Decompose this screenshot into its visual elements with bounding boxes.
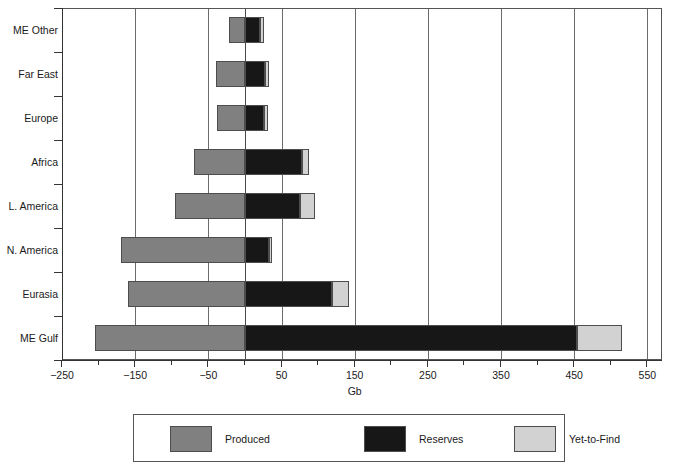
bar-group-l-america xyxy=(0,193,698,219)
x-tick-label--250: −250 xyxy=(32,369,92,381)
x-tick xyxy=(61,360,62,367)
x-tick xyxy=(463,360,464,365)
x-tick xyxy=(500,360,501,367)
x-tick xyxy=(98,360,99,365)
x-axis-title: Gb xyxy=(325,385,385,397)
bar-segment-produced xyxy=(194,149,244,175)
bar-segment-yet-to-find xyxy=(260,17,264,43)
y-tick xyxy=(54,140,63,141)
bar-segment-reserves xyxy=(245,149,302,175)
x-tick xyxy=(537,360,538,365)
bar-group-n-america xyxy=(0,237,698,263)
chart-title xyxy=(0,0,698,5)
y-tick xyxy=(54,96,63,97)
bar-group-me-gulf xyxy=(0,325,698,351)
bar-group-europe xyxy=(0,105,698,131)
y-tick xyxy=(54,184,63,185)
bar-segment-reserves xyxy=(245,281,332,307)
legend-swatch-produced xyxy=(170,426,212,452)
bar-segment-reserves xyxy=(245,193,300,219)
x-tick xyxy=(207,360,208,367)
x-tick xyxy=(390,360,391,365)
legend-swatch-yet-to-find xyxy=(514,426,556,452)
bar-segment-reserves xyxy=(245,237,269,263)
x-tick xyxy=(646,360,647,367)
bar-group-africa xyxy=(0,149,698,175)
x-tick-label-150: 150 xyxy=(325,369,385,381)
bar-group-eurasia xyxy=(0,281,698,307)
x-axis-line xyxy=(62,360,662,361)
y-tick xyxy=(54,316,63,317)
bar-segment-yet-to-find xyxy=(332,281,349,307)
bar-segment-yet-to-find xyxy=(577,325,622,351)
x-tick-label-50: 50 xyxy=(252,369,312,381)
y-tick xyxy=(54,228,63,229)
bar-segment-reserves xyxy=(245,105,264,131)
bar-segment-yet-to-find xyxy=(265,61,269,87)
bar-segment-reserves xyxy=(245,61,265,87)
legend-swatch-reserves xyxy=(364,426,406,452)
y-tick xyxy=(54,8,63,9)
x-tick-label--50: −50 xyxy=(178,369,238,381)
x-tick xyxy=(317,360,318,365)
legend-label: Produced xyxy=(225,433,270,445)
bar-group-me-other xyxy=(0,17,698,43)
y-tick xyxy=(54,272,63,273)
x-tick xyxy=(244,360,245,365)
bar-segment-reserves xyxy=(245,17,260,43)
legend: ProducedReservesYet-to-Find xyxy=(133,414,565,462)
x-tick xyxy=(610,360,611,365)
legend-label: Reserves xyxy=(419,433,463,445)
bar-chart: ME OtherFar EastEuropeAfricaL. AmericaN.… xyxy=(0,0,698,470)
x-tick xyxy=(171,360,172,365)
x-tick-label-550: 550 xyxy=(617,369,677,381)
bar-segment-produced xyxy=(175,193,245,219)
x-tick xyxy=(134,360,135,367)
bar-segment-produced xyxy=(229,17,245,43)
x-tick xyxy=(427,360,428,367)
x-tick-label-250: 250 xyxy=(398,369,458,381)
bar-segment-yet-to-find xyxy=(302,149,309,175)
bar-segment-produced xyxy=(128,281,245,307)
bar-segment-yet-to-find xyxy=(269,237,272,263)
x-tick-label--150: −150 xyxy=(105,369,165,381)
x-tick-label-350: 350 xyxy=(471,369,531,381)
bar-segment-yet-to-find xyxy=(300,193,315,219)
bar-segment-yet-to-find xyxy=(264,105,268,131)
y-tick xyxy=(54,52,63,53)
x-tick xyxy=(573,360,574,367)
bar-group-far-east xyxy=(0,61,698,87)
x-tick xyxy=(281,360,282,367)
legend-label: Yet-to-Find xyxy=(569,433,620,445)
bar-segment-produced xyxy=(121,237,245,263)
x-tick xyxy=(354,360,355,367)
x-tick-label-450: 450 xyxy=(544,369,604,381)
bar-segment-produced xyxy=(217,105,245,131)
bar-segment-produced xyxy=(95,325,245,351)
bar-segment-reserves xyxy=(245,325,577,351)
bar-segment-produced xyxy=(216,61,245,87)
